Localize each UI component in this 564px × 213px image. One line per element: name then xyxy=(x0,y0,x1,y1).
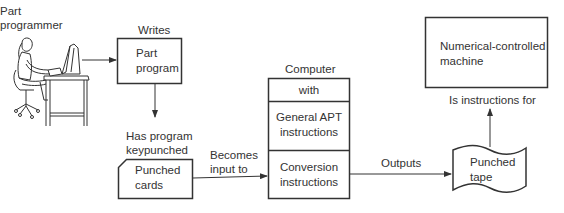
outputs-label: Outputs xyxy=(381,156,421,170)
becomes-input-label: Becomes input to xyxy=(210,148,258,176)
part-programmer-label: Part programmer xyxy=(0,4,63,32)
nc-machine-line2: machine xyxy=(440,54,545,69)
part-program-line2: program xyxy=(136,61,179,76)
keypunched-line1: Has program xyxy=(126,129,192,143)
general-apt-line2: instructions xyxy=(268,125,350,140)
apt-flow-diagram: Part programmer Writes Part program Has … xyxy=(0,0,564,213)
punched-tape-line1: Punched xyxy=(470,155,515,170)
becomes-input-line2: input to xyxy=(210,162,258,176)
computer-row-with: with xyxy=(268,83,350,98)
conversion-line2: instructions xyxy=(268,175,350,190)
part-programmer-label-line1: Part xyxy=(0,4,63,18)
punched-cards-line1: Punched xyxy=(135,163,180,178)
part-programmer-label-line2: programmer xyxy=(0,18,63,32)
part-program-text: Part program xyxy=(136,46,179,76)
writes-label: Writes xyxy=(138,23,170,37)
punched-tape-text: Punched tape xyxy=(470,155,515,185)
nc-machine-text: Numerical-controlled machine xyxy=(440,39,545,69)
computer-row-conversion: Conversion instructions xyxy=(268,160,350,190)
keypunched-line2: keypunched xyxy=(126,143,192,157)
computer-row-general-apt: General APT instructions xyxy=(268,110,350,140)
arrow-becomes-input xyxy=(193,176,267,178)
general-apt-line1: General APT xyxy=(268,110,350,125)
keypunched-label: Has program keypunched xyxy=(126,129,192,157)
person-at-computer-icon xyxy=(14,38,89,126)
punched-cards-line2: cards xyxy=(135,178,180,193)
punched-tape-line2: tape xyxy=(470,170,515,185)
part-program-line1: Part xyxy=(136,46,179,61)
computer-title: Computer xyxy=(285,62,336,76)
nc-machine-line1: Numerical-controlled xyxy=(440,39,545,54)
conversion-line1: Conversion xyxy=(268,160,350,175)
punched-cards-text: Punched cards xyxy=(135,163,180,193)
becomes-input-line1: Becomes xyxy=(210,148,258,162)
instructions-for-label: Is instructions for xyxy=(449,93,536,107)
